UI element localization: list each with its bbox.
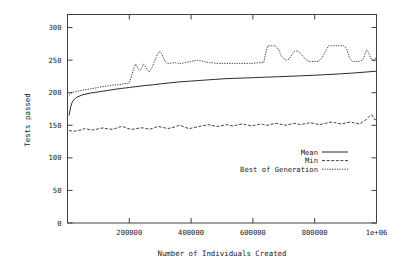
x-tick-label: 200000 [116,228,142,237]
y-axis-title: Tests passed [23,93,32,146]
x-tick-label: 600000 [240,228,266,237]
x-tick-label: 800000 [302,228,328,237]
y-tick-label: 250 [49,56,62,65]
y-tick-label: 300 [49,23,62,32]
series-line-best-of-generation [69,46,376,96]
chart-container: 050100150200250300 200000400000600000800… [0,0,408,265]
y-tick-label: 100 [49,153,62,162]
y-tick-label: 50 [53,186,62,195]
series-line-mean [69,71,376,115]
y-tick-label: 150 [49,121,62,130]
series-line-min [69,115,376,131]
chart-legend: MeanMinBest of Generation [240,148,348,174]
legend-label-best-of-generation: Best of Generation [240,165,318,174]
data-series-layer [69,46,376,131]
y-tick-label: 200 [49,88,62,97]
x-axis-ticks: 2000004000006000008000001e+06 [116,15,387,238]
plot-frame [68,15,377,224]
x-tick-label: 400000 [178,228,204,237]
y-tick-label: 0 [57,219,61,228]
x-axis-title: Number of Individuals Created [157,249,286,258]
x-tick-label: 1e+06 [366,228,388,237]
line-chart: 050100150200250300 200000400000600000800… [0,0,408,265]
